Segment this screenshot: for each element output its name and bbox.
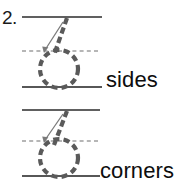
letter-stem-trace-row2 <box>54 111 67 145</box>
letter-stem-trace-row1 <box>54 18 67 55</box>
stroke-direction-arrow-row1 <box>42 22 63 53</box>
item-number: 2. <box>2 8 17 27</box>
answer-label-sides: sides <box>106 69 158 91</box>
worksheet-item: 2. <box>0 0 180 186</box>
letter-bowl-trace-row2 <box>40 139 78 177</box>
letter-bowl-trace-row1 <box>40 50 78 88</box>
figure-row-corners <box>22 110 100 177</box>
answer-label-corners: corners <box>100 160 174 182</box>
figure-row-sides <box>22 17 102 88</box>
stroke-direction-arrow-row2 <box>42 114 63 143</box>
